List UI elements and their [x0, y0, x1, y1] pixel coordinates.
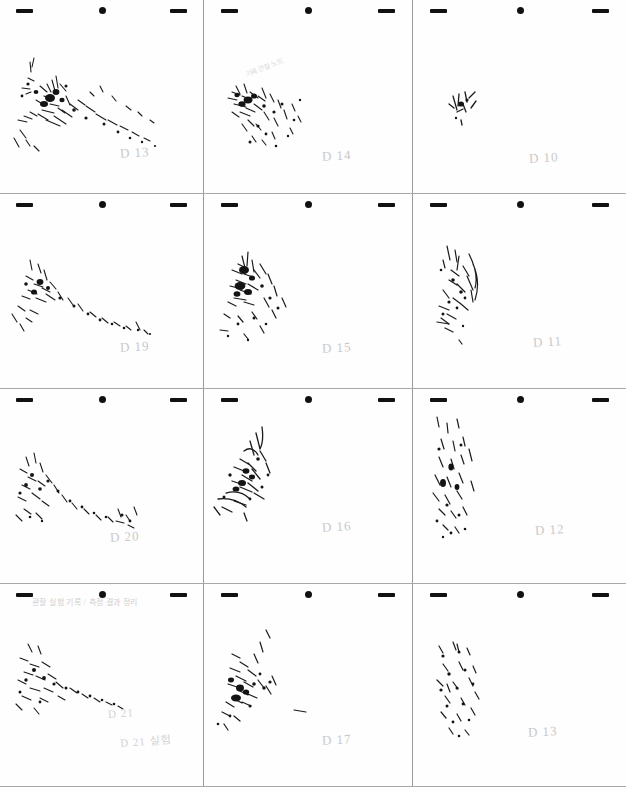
sketch-cell: D 11	[413, 194, 626, 388]
sketch-cell: D 12	[413, 389, 626, 583]
sketch-cell: D 17	[204, 584, 412, 786]
scanned-page: D 13 기록 관찰 노트	[0, 0, 626, 794]
ink-sketch	[413, 584, 626, 786]
cell-label: D 11	[533, 333, 563, 351]
ink-sketch	[413, 0, 626, 193]
cell-label: D 13	[120, 144, 150, 162]
sketch-cell: D 19	[0, 194, 203, 388]
ink-sketch	[413, 389, 626, 583]
sketch-cell: D 13	[0, 0, 203, 193]
ink-sketch	[0, 389, 203, 583]
sketch-cell: D 13	[413, 584, 626, 786]
cell-label: D 10	[529, 149, 559, 167]
sketch-cell: D 20	[0, 389, 203, 583]
cell-label: D 14	[322, 147, 352, 165]
cell-label: D 19	[120, 338, 150, 356]
ink-sketch	[204, 0, 412, 193]
ink-sketch	[204, 389, 412, 583]
ink-sketch	[0, 584, 203, 786]
sketch-cell: 기록 관찰 노트	[204, 0, 412, 193]
cell-label: D 20	[110, 528, 140, 546]
sketch-cell: 관찰 실험 기록 / 측정 결과 정리 D 21 D 2	[0, 584, 203, 786]
page-bottom-border	[0, 786, 626, 787]
cell-label: D 12	[535, 521, 565, 539]
ink-sketch	[204, 584, 412, 786]
cell-label-primary: D 21	[108, 706, 134, 720]
cell-label: D 17	[322, 731, 352, 749]
ink-sketch	[204, 194, 412, 388]
sketch-cell: D 15	[204, 194, 412, 388]
sketch-cell: D 10	[413, 0, 626, 193]
cell-label: D 16	[322, 518, 352, 536]
cell-label: D 13	[528, 723, 558, 741]
ink-sketch	[0, 194, 203, 388]
sketch-cell: D 16	[204, 389, 412, 583]
ink-sketch	[413, 194, 626, 388]
cell-label: D 15	[322, 339, 352, 357]
ink-sketch	[0, 0, 203, 193]
